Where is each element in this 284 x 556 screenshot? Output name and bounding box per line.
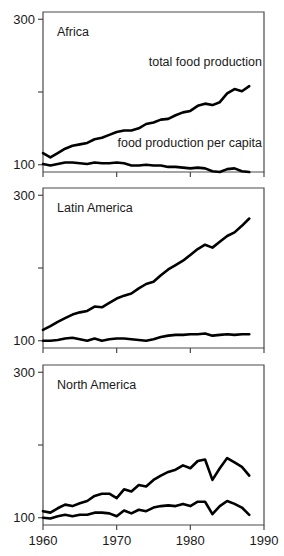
x-tick-label: 1980 xyxy=(176,533,205,548)
series-food-production-per-capita xyxy=(43,333,249,340)
chart-panel: 100300Latin America xyxy=(13,188,264,353)
series-total-food-production xyxy=(43,219,249,330)
chart-canvas: 100300Africatotal food productionfood pr… xyxy=(0,0,284,556)
y-tick-label: 100 xyxy=(13,157,35,172)
panel-title: Africa xyxy=(57,25,89,39)
y-tick-label: 100 xyxy=(13,333,35,348)
panel-title: North America xyxy=(57,378,136,392)
x-tick-label: 1970 xyxy=(102,533,131,548)
series-food-production-per-capita xyxy=(43,501,249,518)
chart-panel: 1003001960197019801990North America xyxy=(13,365,278,548)
series-total-food-production xyxy=(43,458,249,513)
y-tick-label: 100 xyxy=(13,510,35,525)
series-annotation: food production per capita xyxy=(117,136,262,150)
x-tick-label: 1990 xyxy=(250,533,279,548)
y-tick-label: 300 xyxy=(13,365,35,380)
x-tick-label: 1960 xyxy=(29,533,58,548)
series-food-production-per-capita xyxy=(43,163,249,172)
series-annotation: total food production xyxy=(149,55,262,69)
panel-title: Latin America xyxy=(57,201,133,215)
chart-panel: 100300Africatotal food productionfood pr… xyxy=(13,12,264,177)
y-tick-label: 300 xyxy=(13,188,35,203)
y-tick-label: 300 xyxy=(13,12,35,27)
food-production-figure: 100300Africatotal food productionfood pr… xyxy=(0,0,284,556)
